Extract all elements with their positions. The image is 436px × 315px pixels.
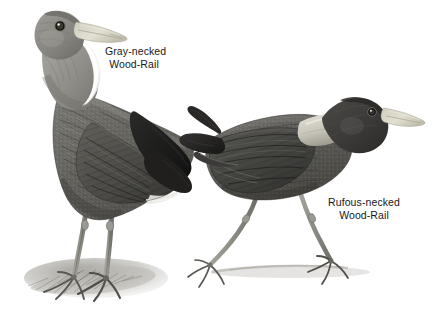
label-rufous-necked-line2: Wood-Rail	[327, 209, 401, 222]
birds-artwork	[0, 0, 436, 315]
foot-right-bird-rear	[188, 260, 224, 287]
label-gray-necked-line1: Gray-necked	[105, 45, 163, 58]
label-rufous-necked-line1: Rufous-necked	[327, 196, 401, 209]
bird-rufous-necked-wood-rail	[179, 97, 425, 287]
label-gray-necked-line2: Wood-Rail	[105, 58, 163, 71]
label-rufous-necked-wood-rail: Rufous-necked Wood-Rail	[327, 196, 401, 222]
eye-left-bird	[55, 21, 65, 31]
illustration-plate: Gray-necked Wood-Rail Rufous-necked Wood…	[0, 0, 436, 315]
eye-right-bird	[368, 108, 377, 117]
label-gray-necked-wood-rail: Gray-necked Wood-Rail	[105, 45, 163, 71]
